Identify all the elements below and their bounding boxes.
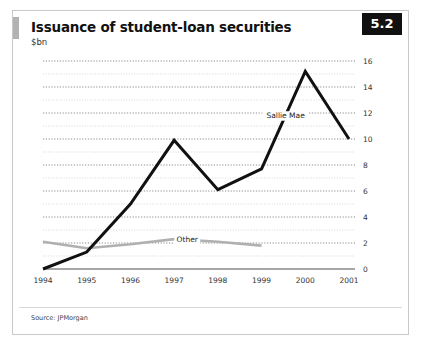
- svg-text:Other: Other: [177, 235, 199, 244]
- svg-text:14: 14: [363, 83, 373, 92]
- svg-text:1995: 1995: [77, 276, 96, 285]
- svg-text:12: 12: [363, 109, 373, 118]
- svg-text:1998: 1998: [208, 276, 227, 285]
- chart-source-note: Source: JPMorgan: [31, 314, 88, 322]
- svg-text:1997: 1997: [165, 276, 184, 285]
- header-accent-tab: [13, 17, 19, 39]
- svg-text:1996: 1996: [121, 276, 140, 285]
- chart-figure-card: 5.2 Issuance of student-loan securities …: [12, 10, 409, 335]
- svg-text:Sallie Mae: Sallie Mae: [266, 111, 305, 120]
- svg-text:0: 0: [363, 265, 368, 274]
- svg-text:10: 10: [363, 135, 373, 144]
- svg-text:2001: 2001: [339, 276, 358, 285]
- figure-number-badge: 5.2: [362, 13, 402, 35]
- svg-text:1994: 1994: [33, 276, 52, 285]
- y-axis-tick-labels: 0246810121416: [363, 57, 373, 274]
- svg-text:16: 16: [363, 57, 373, 66]
- chart-plot-area: 0246810121416 19941995199619971998199920…: [31, 55, 391, 295]
- svg-text:8: 8: [363, 161, 368, 170]
- svg-text:6: 6: [363, 187, 368, 196]
- svg-text:2000: 2000: [296, 276, 315, 285]
- chart-title: Issuance of student-loan securities: [31, 19, 291, 35]
- svg-text:4: 4: [363, 213, 368, 222]
- gridlines-minor: [43, 74, 355, 256]
- series-other-line: [43, 239, 262, 248]
- x-axis-tick-labels: 19941995199619971998199920002001: [33, 276, 358, 285]
- chart-units-subtitle: $bn: [31, 37, 47, 47]
- line-chart-svg: 0246810121416 19941995199619971998199920…: [31, 55, 391, 295]
- svg-text:2: 2: [363, 239, 368, 248]
- svg-text:1999: 1999: [252, 276, 271, 285]
- source-divider: [19, 307, 402, 308]
